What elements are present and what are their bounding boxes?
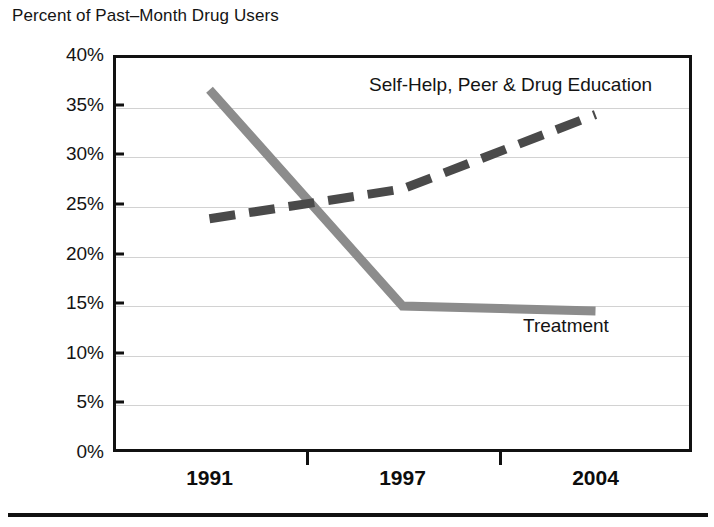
y-axis-tick-label: 35% [16, 94, 104, 116]
y-axis-labels: 40%35%30%25%20%15%10%5%0% [8, 55, 104, 452]
y-axis-tick-mark [113, 103, 124, 106]
y-axis-tick-label: 20% [16, 243, 104, 265]
gridline [116, 405, 689, 406]
gridline [116, 207, 689, 208]
y-axis-tick-label: 10% [16, 342, 104, 364]
x-axis-tick-label: 2004 [572, 466, 619, 490]
y-axis-tick-mark [113, 351, 124, 354]
y-axis-tick-mark [113, 302, 124, 305]
series-label-treatment: Treatment [523, 315, 609, 337]
gridline [116, 108, 689, 109]
gridline [116, 157, 689, 158]
y-axis-tick-label: 30% [16, 143, 104, 165]
y-axis-tick-label: 40% [16, 44, 104, 66]
y-axis-tick-label: 0% [16, 441, 104, 463]
y-axis-tick-label: 15% [16, 292, 104, 314]
x-axis-tick-mark [499, 452, 502, 465]
y-axis-tick-label: 5% [16, 391, 104, 413]
plot-area [113, 55, 692, 452]
chart-title: Percent of Past–Month Drug Users [12, 6, 279, 26]
y-axis-tick-mark [113, 252, 124, 255]
y-axis-tick-mark [113, 153, 124, 156]
x-axis-tick-label: 1997 [379, 466, 426, 490]
y-axis-tick-mark [113, 401, 124, 404]
x-axis-tick-mark [306, 452, 309, 465]
gridline [116, 356, 689, 357]
gridline [116, 257, 689, 258]
series-label-self-help: Self-Help, Peer & Drug Education [369, 74, 652, 96]
x-axis-tick-label: 1991 [186, 466, 233, 490]
chart-figure: Percent of Past–Month Drug Users 40%35%3… [0, 0, 714, 527]
gridline [116, 306, 689, 307]
y-axis-tick-mark [113, 202, 124, 205]
bottom-rule [8, 513, 708, 517]
y-axis-tick-label: 25% [16, 193, 104, 215]
